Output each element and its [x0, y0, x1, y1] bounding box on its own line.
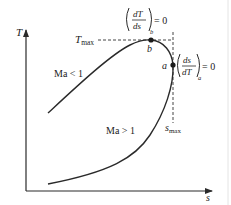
svg-text:a: a [198, 74, 201, 81]
point-b-marker [148, 37, 153, 42]
svg-text:ds: ds [133, 21, 142, 31]
svg-text:= 0: = 0 [154, 15, 167, 26]
svg-text:ds: ds [183, 55, 192, 65]
point-a-marker [170, 62, 175, 67]
s-max-label: smax [165, 122, 181, 135]
subsonic-label: Ma < 1 [54, 68, 83, 79]
svg-text:= 0: = 0 [202, 61, 215, 72]
t-max-label: Tmax [75, 33, 94, 47]
fanno-line-diagram: T s b a Tmax smax Ma < 1 Ma > 1 dT ds b … [0, 0, 231, 205]
supersonic-label: Ma > 1 [106, 125, 135, 136]
point-a-label: a [162, 60, 167, 71]
svg-text:dT: dT [133, 9, 144, 19]
svg-text:dT: dT [182, 67, 193, 77]
fanno-curve [48, 40, 173, 184]
svg-text:b: b [150, 28, 154, 35]
point-b-label: b [147, 43, 152, 54]
x-axis-label: s [206, 192, 210, 203]
condition-a-label: ds dT a = 0 [178, 54, 216, 81]
condition-b-label: dT ds b = 0 [127, 8, 168, 35]
y-axis-label: T [16, 26, 23, 38]
